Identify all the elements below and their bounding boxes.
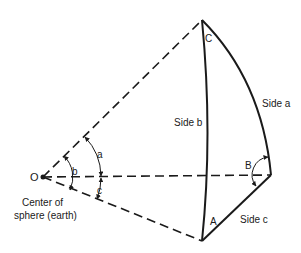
vertex-C-label: C (205, 33, 212, 44)
triangle-sides (202, 20, 271, 241)
vertex-O-label: O (30, 171, 39, 183)
spherical-triangle-diagram: O C B A Side a Side b Side c a b c Cente… (0, 0, 301, 253)
side-a-label: Side a (262, 98, 291, 109)
side-b-arc (202, 20, 208, 241)
center-point (41, 175, 46, 180)
side-b-label: Side b (174, 117, 203, 128)
center-caption-line1: Center of (22, 197, 63, 208)
angle-c-label: c (97, 185, 102, 196)
radius-to-C (43, 20, 202, 177)
angle-arcs (64, 137, 268, 199)
side-c-arc (202, 175, 271, 241)
angle-b-label: b (72, 166, 78, 177)
angle-a-label: a (97, 149, 103, 160)
side-c-label: Side c (240, 214, 268, 225)
side-a-arc (202, 20, 271, 175)
radius-to-A (43, 177, 202, 241)
vertex-A-label: A (210, 216, 217, 227)
vertex-B-label: B (245, 160, 252, 171)
angle-B-arc (252, 157, 268, 186)
center-caption-line2: sphere (earth) (14, 210, 77, 221)
